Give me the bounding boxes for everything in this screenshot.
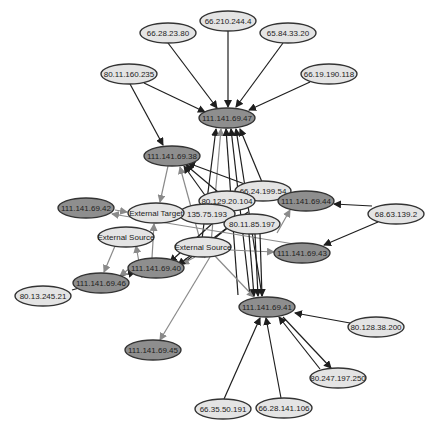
node-label: 80.247.197.250 [310, 374, 366, 383]
graph-node[interactable]: 80.13.245.21 [15, 286, 71, 306]
node-label: 111.141.69.41 [242, 303, 293, 312]
node-label: 111.141.69.42 [61, 204, 112, 213]
graph-node[interactable]: 111.141.69.44 [278, 191, 334, 211]
graph-node[interactable]: 111.141.69.41 [239, 297, 295, 317]
node-label: 66.19.190.118 [304, 70, 355, 79]
graph-node[interactable]: 66.28.23.80 [140, 23, 196, 43]
edge-arrow [160, 166, 168, 202]
edge-arrow [266, 318, 281, 398]
edge-arrow [104, 246, 115, 272]
graph-node[interactable]: 66.28.141.106 [256, 398, 312, 418]
graph-node[interactable]: 111.141.69.47 [199, 108, 255, 128]
graph-node[interactable]: 80.11.160.235 [101, 64, 157, 84]
edge-arrow [144, 83, 205, 112]
graph-node[interactable]: 111.141.69.45 [125, 340, 181, 360]
edge-arrow [230, 250, 274, 252]
graph-node[interactable]: External Target [128, 203, 184, 223]
graph-node[interactable]: 111.141.69.43 [274, 243, 330, 263]
node-label: 80.128.38.200 [350, 323, 402, 332]
node-label: 111.141.69.45 [128, 346, 179, 355]
node-label: 68.63.139.2 [375, 210, 418, 219]
node-label: 66.35.50.191 [200, 405, 247, 414]
node-label: 66.28.141.106 [258, 404, 310, 413]
node-label: External Target [129, 209, 183, 218]
graph-node[interactable]: 80.247.197.250 [310, 368, 366, 388]
graph-node[interactable]: External Source [98, 227, 155, 247]
graph-node[interactable]: 111.141.69.46 [73, 273, 129, 293]
network-graph: 66.28.23.8066.210.244.465.84.33.2080.11.… [0, 0, 445, 430]
edge-arrow [283, 317, 331, 368]
edge-arrow [279, 317, 320, 369]
graph-node[interactable]: 66.210.244.4 [200, 11, 256, 31]
edge-arrow [115, 210, 127, 212]
edge-arrow [186, 165, 218, 192]
node-label: 111.141.69.47 [202, 114, 253, 123]
graph-node[interactable]: 80.128.38.200 [348, 317, 404, 337]
edge-arrow [324, 222, 378, 245]
node-label: 80.13.245.21 [20, 292, 67, 301]
edge-arrow [249, 82, 310, 110]
node-layer: 66.28.23.8066.210.244.465.84.33.2080.11.… [15, 11, 424, 419]
graph-node[interactable]: 111.141.69.42 [58, 198, 114, 218]
node-label: 111.141.69.38 [147, 152, 198, 161]
edge-arrow [130, 84, 163, 145]
node-label: 111.141.69.43 [277, 249, 328, 258]
graph-node[interactable]: 65.84.33.20 [260, 23, 316, 43]
node-label: External Source [175, 243, 232, 252]
graph-node[interactable]: 80.11.85.197 [224, 214, 280, 234]
node-label: 65.84.33.20 [267, 29, 310, 38]
graph-node[interactable]: 68.63.139.2 [368, 204, 424, 224]
graph-node[interactable]: 111.141.69.40 [128, 258, 184, 278]
node-label: 135.75.193 [187, 210, 228, 219]
node-label: 111.141.69.40 [131, 264, 182, 273]
edge-arrow [295, 313, 350, 323]
node-label: 111.141.69.44 [281, 197, 332, 206]
edge-arrow [334, 204, 372, 206]
graph-node[interactable]: External Source [175, 237, 232, 257]
graph-node[interactable]: 111.141.69.38 [144, 146, 200, 166]
node-label: 111.141.69.46 [76, 279, 127, 288]
node-label: 80.11.160.235 [104, 70, 155, 79]
graph-node[interactable]: 66.19.190.118 [301, 64, 357, 84]
edge-arrow [224, 318, 260, 399]
node-label: 66.28.23.80 [147, 29, 190, 38]
node-label: External Source [98, 233, 155, 242]
graph-node[interactable]: 66.35.50.191 [195, 399, 251, 419]
node-label: 80.11.85.197 [229, 220, 276, 229]
node-label: 66.210.244.4 [205, 17, 252, 26]
